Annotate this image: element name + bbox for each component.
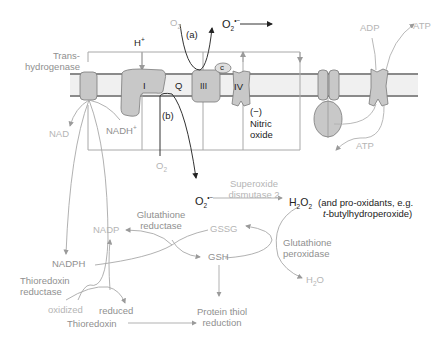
nadph-label: NADPH — [52, 258, 85, 269]
h2o-label: H2O — [306, 274, 324, 285]
thioredoxin-label: Thioredoxin — [67, 318, 117, 329]
quinone-label: Q — [175, 80, 182, 91]
proton-label: H+ — [134, 37, 145, 48]
h2o2-label: H2O2 — [289, 197, 312, 208]
superoxide-top-label: O2•− — [222, 19, 240, 30]
sod2-label: Superoxide dismutase 2 — [215, 178, 293, 200]
nitric-oxide-label: Nitric oxide — [250, 118, 273, 140]
nad-label: NAD — [49, 128, 69, 139]
atp-bottom-label: ATP — [356, 140, 374, 151]
path-a-label: (a) — [186, 29, 198, 40]
complex-I-protein — [121, 69, 166, 116]
adp-label: ADP — [360, 22, 380, 33]
o2-lower-label: O2 — [156, 160, 167, 171]
superoxide-label: O2•− — [195, 196, 213, 207]
thioredoxin-reductase-label: Thioredoxin reductase — [20, 275, 70, 297]
o2-top-label: O2 — [170, 17, 181, 28]
complex-III-label: III — [200, 81, 207, 92]
pro-oxidants-label: (and pro-oxidants, e.g. t-butylhydropero… — [318, 197, 413, 219]
gsh-label: GSH — [208, 251, 229, 262]
atp-synthase — [314, 70, 342, 138]
path-b-label: (b) — [162, 110, 174, 121]
complex-IV-label: IV — [234, 81, 243, 92]
glutathione-reductase-label: Glutathione reductase — [128, 209, 194, 231]
nadp-label: NADP — [93, 224, 119, 235]
reduced-label: reduced — [99, 305, 133, 316]
nadh-label: NADH+ — [106, 125, 137, 136]
protein-thiol-reduction-label: Protein thiol reduction — [190, 306, 254, 328]
gssg-label: GSSG — [210, 223, 237, 234]
oxidized-label: oxidized — [48, 304, 83, 315]
transhydrogenase-label: Trans- hydrogenase — [2, 50, 80, 72]
transhydrogenase-protein — [80, 72, 97, 100]
atp-top-label: ATP — [413, 20, 431, 31]
adp-atp-translocase — [369, 69, 388, 106]
inhibitor-sign: (−) — [250, 106, 262, 117]
cytochrome-c-label: c — [220, 62, 224, 73]
glutathione-peroxidase-label: Glutathione peroxidase — [283, 237, 332, 259]
complex-I-label: I — [143, 80, 146, 91]
